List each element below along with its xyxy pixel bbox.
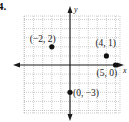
data-point-label: (0, −3) xyxy=(73,88,99,99)
x-axis-left-arrow-icon xyxy=(13,63,20,68)
data-point-label: (5, 0) xyxy=(97,68,118,79)
data-point-label: (4, 1) xyxy=(95,38,116,49)
y-axis-up-arrow-icon xyxy=(68,6,73,13)
data-point-marker xyxy=(113,62,118,67)
data-point-marker xyxy=(67,90,72,95)
coordinate-plane: y x (−2, 2)(4, 1)(5, 0)(0, −3) xyxy=(0,0,129,122)
x-axis-label: x xyxy=(122,66,127,75)
y-axis-down-arrow-icon xyxy=(68,114,73,121)
data-point-marker xyxy=(49,44,54,49)
axes: y x xyxy=(13,5,127,121)
data-point-marker xyxy=(104,53,109,58)
y-axis-label: y xyxy=(73,5,78,14)
data-point-label: (−2, 2) xyxy=(30,34,56,45)
